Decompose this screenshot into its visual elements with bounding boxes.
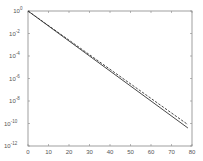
x-tick-label: 80	[189, 149, 196, 155]
x-tick-label: 0	[26, 149, 30, 155]
y-tick-label: 10-4	[9, 51, 20, 59]
x-tick-label: 30	[86, 149, 93, 155]
plot-frame	[28, 11, 192, 146]
line-chart: 0102030405060708010010-210-410-610-810-1…	[0, 0, 203, 161]
x-tick-label: 70	[168, 149, 175, 155]
y-tick-label: 10-12	[4, 141, 18, 149]
x-tick-label: 50	[127, 149, 134, 155]
y-tick-label: 100	[13, 6, 23, 14]
y-tick-label: 10-8	[9, 96, 20, 104]
y-tick-label: 10-6	[9, 74, 20, 82]
y-tick-label: 10-10	[4, 119, 18, 127]
x-tick-label: 20	[66, 149, 73, 155]
series-line-dashed	[28, 11, 188, 125]
x-tick-label: 40	[107, 149, 114, 155]
x-tick-label: 10	[45, 149, 52, 155]
x-tick-label: 60	[148, 149, 155, 155]
y-tick-label: 10-2	[9, 29, 20, 37]
